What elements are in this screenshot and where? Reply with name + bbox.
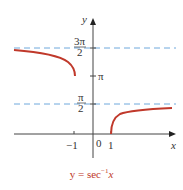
x-axis-arrow-icon xyxy=(169,131,176,137)
right-branch-curve xyxy=(111,108,172,134)
label-zero: 0 xyxy=(96,137,102,149)
y-axis-label: y xyxy=(81,13,87,25)
label-3pi-2-den: 2 xyxy=(77,46,83,58)
label-neg-one: −1 xyxy=(66,139,78,151)
label-pi-2-den: 2 xyxy=(78,102,84,114)
caption-var: x xyxy=(108,168,113,180)
graph-caption: y = sec−1x xyxy=(0,167,183,180)
inverse-secant-graph: y x 3π 2 π π 2 −1 0 1 xyxy=(0,0,183,190)
x-axis-label: x xyxy=(170,139,176,151)
label-pi: π xyxy=(98,70,104,82)
label-one: 1 xyxy=(108,139,114,151)
caption-prefix: y = sec xyxy=(70,168,101,180)
y-axis-arrow-icon xyxy=(90,18,96,25)
left-branch-curve xyxy=(14,50,75,76)
